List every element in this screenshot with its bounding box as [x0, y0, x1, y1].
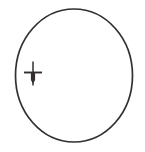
- figure-canvas: circle-with-cross-marker: [0, 0, 145, 152]
- figure-svg: [0, 0, 145, 152]
- figure-background: [0, 0, 145, 152]
